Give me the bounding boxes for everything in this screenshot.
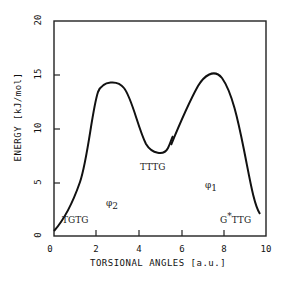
x-ticks — [96, 230, 224, 236]
y-tick-5: 5 — [33, 176, 43, 188]
annotation-phi1: φ1 — [205, 180, 217, 190]
x-tick-4: 4 — [131, 244, 147, 254]
x-tick-8: 8 — [216, 244, 232, 254]
energy-chart: ENERGY [kJ/mol] TORSIONAL ANGLES [a.u.] … — [0, 0, 283, 283]
annotation-gstar-ttg: G*TTG — [220, 215, 251, 225]
annotation-tgtg: TGTG — [62, 215, 88, 225]
y-ticks — [54, 75, 60, 183]
y-tick-20: 20 — [33, 14, 43, 26]
annotation-phi2: φ2 — [106, 198, 118, 208]
x-tick-6: 6 — [174, 244, 190, 254]
x-tick-2: 2 — [88, 244, 104, 254]
annotation-tttg: TTTG — [140, 162, 166, 172]
axes-frame — [54, 21, 266, 236]
x-tick-10: 10 — [258, 244, 274, 254]
y-axis-label: ENERGY [kJ/mol] — [13, 57, 23, 177]
x-axis-label: TORSIONAL ANGLES [a.u.] — [90, 258, 226, 268]
y-tick-15: 15 — [33, 68, 43, 80]
y-tick-10: 10 — [33, 122, 43, 134]
y-tick-0: 0 — [33, 229, 43, 241]
x-tick-0: 0 — [42, 244, 58, 254]
